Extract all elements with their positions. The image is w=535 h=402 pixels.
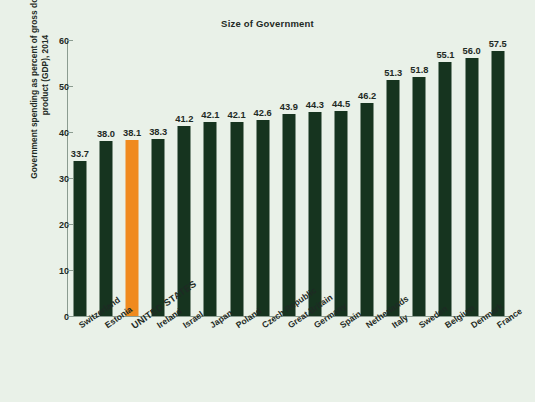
bar[interactable]	[439, 62, 452, 315]
bar-slot: 42.1	[224, 41, 250, 316]
x-axis-label-slot: Ireland	[145, 320, 171, 400]
bar-slot: 57.5	[485, 41, 511, 316]
bar-slot: 42.1	[198, 41, 224, 316]
bar[interactable]	[99, 141, 112, 316]
bar-value-label: 33.7	[71, 149, 89, 159]
bar[interactable]	[152, 139, 165, 315]
bar[interactable]	[73, 161, 86, 316]
bar-value-label: 55.1	[436, 50, 454, 60]
bar-value-label: 42.1	[227, 110, 245, 120]
bar-value-label: 41.2	[175, 114, 193, 124]
bar-value-label: 42.6	[254, 108, 272, 118]
bar[interactable]	[256, 120, 269, 316]
bar-value-label: 42.1	[201, 110, 219, 120]
bar[interactable]	[413, 77, 426, 315]
bar-slot: 51.8	[407, 41, 433, 316]
x-axis-label-slot: Czech Republic	[250, 320, 276, 400]
x-axis-label-slot: Switzerland	[67, 320, 93, 400]
bar-slot: 41.2	[171, 41, 197, 316]
bar-slot: 38.1	[119, 41, 145, 316]
x-axis-label-slot: Denmark	[459, 320, 485, 400]
bar-slot: 42.6	[250, 41, 276, 316]
x-axis-label-slot: Sweden	[407, 320, 433, 400]
bar[interactable]	[361, 103, 374, 316]
bar-value-label: 44.5	[332, 99, 350, 109]
bar[interactable]	[282, 114, 295, 316]
bar-value-label: 51.3	[384, 68, 402, 78]
plot-area: 0102030405060 33.738.038.138.341.242.142…	[67, 41, 511, 317]
bar-value-label: 56.0	[463, 46, 481, 56]
bar-slot: 46.2	[354, 41, 380, 316]
bar-slot: 55.1	[433, 41, 459, 316]
x-axis-label-slot: Italy	[380, 320, 406, 400]
x-axis-label-slot: Japan	[198, 320, 224, 400]
bar-slot: 44.5	[328, 41, 354, 316]
y-axis-title-text: Government spending as percent of gross …	[29, 0, 51, 195]
x-axis-label-slot: Germany	[302, 320, 328, 400]
x-axis-label-slot: Estonia	[93, 320, 119, 400]
bar-slot: 44.3	[302, 41, 328, 316]
bar[interactable]	[465, 58, 478, 316]
bar-value-label: 43.9	[280, 102, 298, 112]
x-axis-label-slot: Netherlands	[354, 320, 380, 400]
bar-value-label: 51.8	[410, 65, 428, 75]
bar-slot: 38.3	[145, 41, 171, 316]
chart-figure: Size of Government Government spending a…	[0, 0, 535, 402]
bar-slot: 38.0	[93, 41, 119, 316]
bar[interactable]	[308, 112, 321, 316]
bar-slot: 33.7	[67, 41, 93, 316]
bar[interactable]	[126, 140, 139, 315]
x-axis-label-slot: UNITED STATES	[119, 320, 145, 400]
y-axis-title: Government spending as percent of gross …	[25, 0, 55, 195]
bar-value-label: 38.3	[149, 127, 167, 137]
bar-value-label: 57.5	[489, 39, 507, 49]
chart-title: Size of Government	[0, 18, 535, 29]
x-axis-labels: SwitzerlandEstoniaUNITED STATESIrelandIs…	[67, 320, 511, 400]
bar[interactable]	[387, 80, 400, 316]
bar-series: 33.738.038.138.341.242.142.142.643.944.3…	[67, 41, 511, 316]
bar[interactable]	[230, 122, 243, 316]
x-axis-label-slot: Spain	[328, 320, 354, 400]
bar-value-label: 38.0	[97, 129, 115, 139]
x-axis-label-slot: Belgium	[433, 320, 459, 400]
bar[interactable]	[335, 111, 348, 316]
x-axis-label-slot: France	[485, 320, 511, 400]
bar-slot: 43.9	[276, 41, 302, 316]
bar[interactable]	[491, 51, 504, 316]
bar-value-label: 46.2	[358, 91, 376, 101]
x-axis-label-slot: Israel	[171, 320, 197, 400]
bar-slot: 56.0	[459, 41, 485, 316]
x-axis-line	[67, 316, 511, 317]
bar-value-label: 38.1	[123, 128, 141, 138]
bar-slot: 51.3	[380, 41, 406, 316]
x-axis-label-slot: Poland	[224, 320, 250, 400]
y-axis-tick-mark	[67, 316, 73, 317]
bar[interactable]	[204, 122, 217, 316]
bar-value-label: 44.3	[306, 100, 324, 110]
x-axis-label-slot: Great Britain	[276, 320, 302, 400]
